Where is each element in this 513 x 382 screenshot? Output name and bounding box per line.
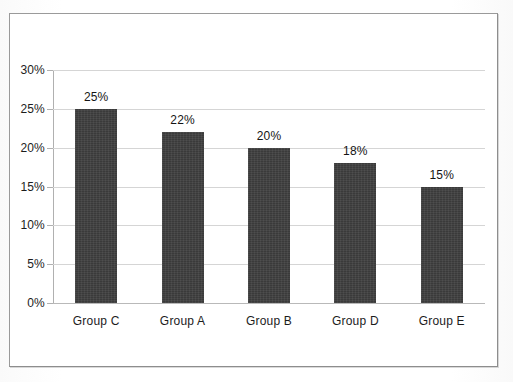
category-axis-line <box>53 303 485 304</box>
bar-group: 25%Group C <box>53 70 139 303</box>
category-axis-label: Group B <box>246 314 292 328</box>
bar-value-label: 22% <box>170 113 195 127</box>
bar[interactable] <box>248 148 290 303</box>
bar-value-label: 18% <box>343 144 368 158</box>
y-axis-tick <box>47 303 53 304</box>
bar-group: 18%Group D <box>312 70 398 303</box>
bar[interactable] <box>421 187 463 304</box>
bar[interactable] <box>162 132 204 303</box>
y-axis-label: 10% <box>0 218 45 232</box>
category-axis-label: Group D <box>332 314 379 328</box>
y-axis-label: 0% <box>0 296 45 310</box>
y-axis-label: 20% <box>0 141 45 155</box>
bar-value-label: 25% <box>84 90 109 104</box>
bar-group: 22%Group A <box>139 70 225 303</box>
bar[interactable] <box>75 109 117 303</box>
bar[interactable] <box>334 163 376 303</box>
category-axis-label: Group E <box>419 314 465 328</box>
y-axis-label: 25% <box>0 102 45 116</box>
bar-group: 20%Group B <box>226 70 312 303</box>
y-axis-label: 5% <box>0 257 45 271</box>
bar-value-label: 15% <box>429 168 454 182</box>
category-axis-label: Group C <box>73 314 120 328</box>
plot-area: 0%5%10%15%20%25%30% 25%Group C22%Group A… <box>53 70 485 303</box>
category-axis-label: Group A <box>160 314 205 328</box>
y-axis-label: 30% <box>0 63 45 77</box>
bar-group: 15%Group E <box>399 70 485 303</box>
bar-value-label: 20% <box>257 129 282 143</box>
bar-chart: 0%5%10%15%20%25%30% 25%Group C22%Group A… <box>0 0 513 382</box>
y-axis-label: 15% <box>0 180 45 194</box>
